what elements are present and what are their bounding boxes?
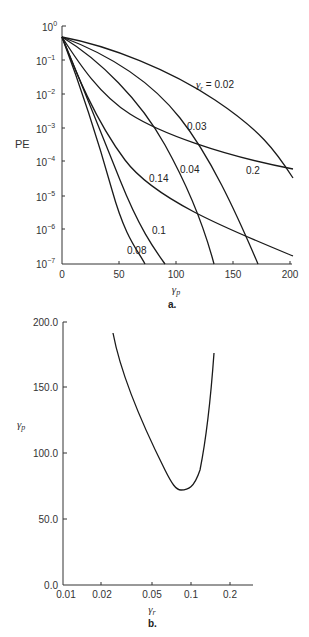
y-tick-label: 10−5 [36,190,55,203]
curve-gr-0.14 [62,37,293,256]
curve-gr-0.2 [62,37,293,169]
figure: 100 10−1 10−2 10−3 10−4 10−5 10−6 10−7 P… [0,0,309,637]
y-tick-label: 150.0 [33,382,58,393]
chart-a-x-label: γp [172,283,180,297]
curve-label-0.1: 0.1 [152,225,166,236]
x-tick-label: 0.05 [142,589,162,600]
panel-label-a: a. [168,299,177,310]
curve-label-0.2: 0.2 [246,165,260,176]
chart-b-y-label: γp [17,418,25,432]
chart-b-x-label: γr [148,603,156,617]
x-tick-label: 150 [225,269,242,280]
y-tick-label: 10−7 [36,257,55,270]
y-tick-label: 10−2 [36,88,55,101]
x-tick-label: 0.1 [184,589,198,600]
curve-label-0.02: γr = 0.02 [196,78,234,92]
chart-a-y-label: PE [15,138,30,150]
x-tick-label: 0.01 [56,589,76,600]
chart-a-x-tick-labels: 0 50 100 150 200 [59,269,299,280]
chart-b-x-tick-labels: 0.01 0.02 0.05 0.1 0.2 [56,589,237,600]
chart-b-y-ticks [63,322,67,519]
curve-gr-0.08 [62,37,145,264]
curve-gr-0.02 [62,37,293,178]
panel-label-b: b. [148,618,157,629]
y-tick-label: 200.0 [33,317,58,328]
x-tick-label: 0.2 [223,589,237,600]
y-tick-label: 50.0 [39,514,59,525]
chart-b-curve [113,333,214,490]
y-tick-label: 10−6 [36,223,55,236]
chart-a-curve-labels: γr = 0.02 0.03 0.04 0.2 0.14 0.1 0.08 [127,78,260,256]
curve-label-0.03: 0.03 [187,121,207,132]
y-tick-label: 10−4 [36,155,55,168]
curve-label-0.14: 0.14 [149,173,169,184]
x-tick-label: 0 [59,269,65,280]
chart-b-y-tick-labels: 200.0 150.0 100.0 50.0 0.0 [33,317,58,591]
y-tick-label: 100 [42,20,57,33]
x-tick-label: 0.02 [92,589,112,600]
x-tick-label: 200 [282,269,299,280]
chart-a: 100 10−1 10−2 10−3 10−4 10−5 10−6 10−7 P… [15,20,299,310]
x-tick-label: 100 [168,269,185,280]
y-tick-label: 10−1 [36,54,55,67]
chart-a-curves [62,37,293,264]
curve-label-0.04: 0.04 [180,164,200,175]
chart-a-y-ticks [62,26,66,229]
chart-b: 200.0 150.0 100.0 50.0 0.0 γp 0.01 0.02 … [17,317,253,629]
y-tick-label: 100.0 [33,448,58,459]
curve-gr-0.1 [62,37,165,264]
x-tick-label: 50 [113,269,125,280]
y-tick-label: 10−3 [36,122,55,135]
curve-label-0.08: 0.08 [127,245,147,256]
chart-a-y-tick-labels: 100 10−1 10−2 10−3 10−4 10−5 10−6 10−7 [36,20,57,270]
